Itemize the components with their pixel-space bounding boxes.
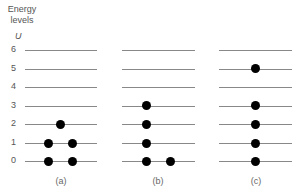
level-line — [219, 87, 292, 88]
energy-symbol: U — [15, 31, 22, 41]
level-line — [122, 124, 195, 125]
axis-title: Energy levels — [2, 4, 42, 26]
particle — [44, 139, 53, 148]
level-line — [25, 106, 97, 107]
particle — [142, 157, 151, 166]
particle — [142, 139, 151, 148]
particle — [251, 120, 260, 129]
level-line — [25, 161, 97, 162]
particle — [142, 101, 151, 110]
particle — [251, 157, 260, 166]
level-line — [122, 87, 195, 88]
axis-title-line2: levels — [2, 15, 42, 26]
particle — [142, 120, 151, 129]
level-label-6: 6 — [6, 44, 16, 54]
particle — [251, 64, 260, 73]
particle — [166, 157, 175, 166]
particle — [68, 139, 77, 148]
axis-title-line1: Energy — [2, 4, 42, 15]
level-line — [122, 106, 195, 107]
level-line — [25, 69, 97, 70]
particle — [68, 157, 77, 166]
level-line — [122, 69, 195, 70]
level-label-4: 4 — [6, 81, 16, 91]
level-label-5: 5 — [6, 63, 16, 73]
panel-caption: (a) — [46, 176, 76, 186]
level-label-1: 1 — [6, 137, 16, 147]
level-line — [25, 143, 97, 144]
level-label-3: 3 — [6, 100, 16, 110]
level-label-2: 2 — [6, 118, 16, 128]
particle — [44, 157, 53, 166]
particle — [251, 139, 260, 148]
level-line — [122, 161, 195, 162]
level-line — [25, 50, 97, 51]
level-line — [122, 50, 195, 51]
particle — [251, 101, 260, 110]
level-label-0: 0 — [6, 155, 16, 165]
particle — [56, 120, 65, 129]
level-line — [122, 143, 195, 144]
level-line — [25, 87, 97, 88]
panel-caption: (b) — [143, 176, 173, 186]
panel-caption: (c) — [241, 176, 271, 186]
level-line — [219, 50, 292, 51]
